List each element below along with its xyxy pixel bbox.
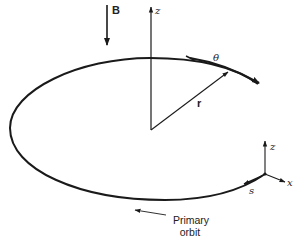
orbit-diagram: B z r θ z x s Primary orbit	[0, 0, 296, 241]
radius-vector-label: r	[197, 97, 202, 109]
magnetic-field-label: B	[112, 4, 120, 16]
orbit-label-line1: Primary	[173, 214, 210, 226]
radius-vector	[151, 72, 228, 130]
local-s-label: s	[249, 185, 254, 196]
primary-orbit-curve	[10, 58, 265, 200]
local-s-arrow	[244, 176, 262, 184]
theta-label: θ	[213, 52, 219, 63]
local-x-axis	[265, 174, 285, 182]
local-x-label: x	[287, 177, 293, 188]
local-z-label: z	[269, 141, 276, 152]
local-origin-point	[263, 172, 266, 175]
orbit-label-line2: orbit	[180, 226, 201, 238]
z-axis-label: z	[154, 5, 161, 16]
orbit-pointer-arrow	[135, 210, 166, 215]
